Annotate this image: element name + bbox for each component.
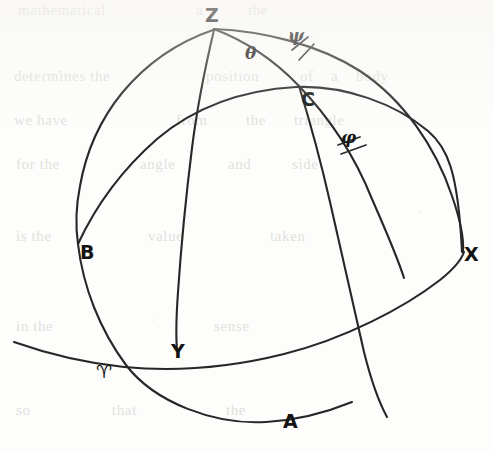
angle-label-theta: θ (245, 45, 256, 62)
point-label-vernal-equinox: ♈ (96, 363, 112, 381)
curve-vertical-circle (176, 30, 214, 350)
angle-label-phi: φ (341, 129, 356, 146)
angle-label-psi: ψ (288, 27, 304, 44)
celestial-sphere-figure: mathematicalathedetermines thepositionof… (0, 0, 494, 451)
point-label-a: A (283, 412, 298, 431)
point-label-z: Z (205, 6, 219, 25)
point-label-x: X (464, 245, 479, 264)
curve-meridian (214, 29, 404, 278)
point-label-y: Y (171, 342, 185, 361)
point-label-b: B (80, 243, 94, 262)
point-label-c: C (301, 90, 315, 109)
diagram-canvas (0, 0, 494, 451)
